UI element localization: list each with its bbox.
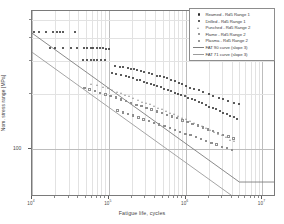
x-tick-label: 107: [258, 199, 265, 206]
y-axis-tick: [29, 93, 31, 94]
x-axis-tick: [54, 196, 55, 198]
legend-symbol: [192, 47, 205, 48]
x-axis-tick: [238, 196, 239, 198]
data-point: [156, 75, 158, 77]
data-point: [132, 97, 134, 99]
x-axis-tick: [162, 196, 163, 198]
legend-item[interactable]: Plasma - Rd5 Range 2: [192, 38, 271, 45]
data-point: [229, 139, 231, 141]
data-point: [191, 98, 193, 100]
data-point: [70, 47, 72, 49]
data-point: [96, 84, 98, 86]
data-point: [226, 147, 228, 149]
legend-item[interactable]: FAT 90 curve (slope 3): [192, 44, 271, 51]
data-point: [200, 138, 202, 140]
legend-marker-open-triangle-icon: [198, 27, 200, 29]
data-point: [114, 65, 116, 67]
data-point: [62, 47, 64, 49]
legend-item[interactable]: Flame - Rd5 Range 2: [192, 31, 271, 38]
data-point: [137, 116, 139, 118]
data-point: [140, 70, 142, 72]
data-point: [99, 92, 101, 94]
data-point: [208, 106, 210, 108]
data-point: [119, 66, 121, 68]
data-point: [122, 111, 124, 113]
x-tick-label: 105: [104, 199, 111, 206]
data-point: [171, 115, 173, 117]
data-point: [104, 59, 106, 61]
legend-item[interactable]: Drilled - Rd5 Range 1: [192, 18, 271, 25]
data-point: [90, 59, 92, 61]
legend-item[interactable]: FAT 71 curve (slope 3): [192, 51, 271, 58]
legend-label: FAT 90 curve (slope 3): [205, 45, 247, 50]
data-point: [215, 143, 217, 145]
data-point: [56, 31, 58, 33]
x-axis-tick: [258, 196, 259, 198]
data-point: [83, 47, 85, 49]
data-point: [100, 59, 102, 61]
data-point: [143, 81, 145, 83]
y-axis-tick: [29, 37, 31, 38]
data-point: [137, 99, 139, 101]
x-axis-tick: [131, 196, 132, 198]
data-point: [173, 113, 175, 115]
data-point: [212, 130, 214, 132]
data-point: [195, 136, 197, 138]
y-axis-title: Nom. stress range [MPa]: [1, 75, 6, 131]
data-point: [94, 90, 96, 92]
fat-curve-71: [32, 52, 275, 196]
legend-symbol: [192, 40, 205, 42]
x-axis-tick: [96, 196, 97, 198]
data-point: [45, 31, 47, 33]
data-point: [207, 128, 209, 130]
legend-label: Punched - Rd5 Range 2: [205, 25, 250, 30]
data-point: [148, 72, 150, 74]
x-tick-label: 106: [181, 199, 188, 206]
x-axis-tick: [154, 196, 155, 198]
fatigue-sn-chart: 104105106107 100 Fatigue life, cycles No…: [0, 0, 284, 224]
legend-label: Reamed - Rd5 Range 1: [205, 12, 249, 17]
legend-line-fat90-icon: [193, 47, 204, 48]
data-point: [49, 47, 51, 49]
data-point: [198, 101, 200, 103]
data-point: [233, 116, 235, 118]
data-point: [174, 92, 176, 94]
legend-label: Flame - Rd5 Range 2: [205, 32, 245, 37]
x-axis-tick: [208, 196, 209, 198]
legend-label: FAT 71 curve (slope 3): [205, 52, 247, 57]
data-point: [176, 117, 178, 119]
y-axis-tick: [29, 19, 31, 20]
data-point: [120, 92, 122, 94]
data-point: [163, 125, 165, 127]
data-point: [150, 108, 152, 110]
data-point: [142, 118, 144, 120]
data-point: [124, 94, 126, 96]
data-point: [141, 101, 143, 103]
x-axis-tick: [181, 196, 182, 198]
data-point: [104, 93, 106, 95]
data-point: [145, 102, 147, 104]
data-point: [130, 102, 132, 104]
data-point: [33, 31, 35, 33]
data-point: [233, 140, 235, 142]
data-point: [74, 31, 76, 33]
data-point: [130, 68, 132, 70]
y-axis-tick: [28, 148, 31, 149]
data-point: [178, 82, 180, 84]
legend-item[interactable]: Punched - Rd5 Range 2: [192, 24, 271, 31]
data-point: [96, 47, 98, 49]
data-point: [116, 109, 118, 111]
data-point: [174, 129, 176, 131]
data-point: [205, 104, 207, 106]
data-point: [136, 79, 138, 81]
legend-marker-open-square-icon: [198, 33, 200, 35]
x-axis-tick: [168, 196, 169, 198]
data-point: [136, 69, 138, 71]
data-point: [189, 134, 191, 136]
legend-item[interactable]: Reamed - Rd5 Range 1: [192, 11, 271, 18]
data-point: [170, 79, 172, 81]
data-point: [184, 133, 186, 135]
legend-symbol: [192, 13, 205, 15]
data-point: [233, 102, 235, 104]
chart-legend: Reamed - Rd5 Range 1Drilled - Rd5 Range …: [189, 8, 275, 61]
